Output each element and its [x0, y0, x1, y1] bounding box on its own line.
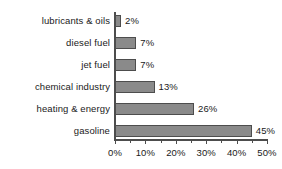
bar-diesel-fuel: [115, 37, 136, 49]
x-tick-30: [206, 139, 207, 144]
x-tick-0: [115, 139, 116, 144]
category-label-diesel-fuel: diesel fuel: [0, 37, 110, 48]
x-tick-35: [221, 139, 222, 143]
category-label-heating-and-energy: heating & energy: [0, 103, 110, 114]
bar-chemical-industry: [115, 81, 155, 93]
x-tick-label-50%: 50%: [257, 147, 276, 158]
bar-value-lubricants-and-oils: 2%: [125, 15, 139, 26]
x-tick-25: [191, 139, 192, 143]
bar-lubricants-and-oils: [115, 15, 121, 27]
category-label-lubricants-and-oils: lubricants & oils: [0, 15, 110, 26]
bar-value-chemical-industry: 13%: [159, 81, 178, 92]
bar-gasoline: [115, 125, 252, 137]
x-tick-15: [161, 139, 162, 143]
bar-value-gasoline: 45%: [256, 125, 275, 136]
y-axis-line: [114, 12, 116, 140]
x-tick-label-40%: 40%: [227, 147, 246, 158]
x-tick-50: [267, 139, 268, 144]
bar-heating-and-energy: [115, 103, 194, 115]
bar-value-jet-fuel: 7%: [140, 59, 154, 70]
category-label-jet-fuel: jet fuel: [0, 59, 110, 70]
x-tick-label-0%: 0%: [108, 147, 122, 158]
x-tick-label-20%: 20%: [166, 147, 185, 158]
x-tick-label-10%: 10%: [136, 147, 155, 158]
category-label-gasoline: gasoline: [0, 125, 110, 136]
x-tick-10: [145, 139, 146, 144]
bar-jet-fuel: [115, 59, 136, 71]
x-tick-label-30%: 30%: [197, 147, 216, 158]
bar-value-heating-and-energy: 26%: [198, 103, 217, 114]
x-tick-45: [252, 139, 253, 143]
x-tick-20: [176, 139, 177, 144]
x-tick-40: [237, 139, 238, 144]
bar-value-diesel-fuel: 7%: [140, 37, 154, 48]
category-label-chemical-industry: chemical industry: [0, 81, 110, 92]
bar-chart: lubricants & oils diesel fuel jet fuel c…: [0, 0, 282, 169]
x-tick-5: [130, 139, 131, 143]
plot-area: 2% 7% 7% 13% 26% 45%: [115, 12, 267, 139]
